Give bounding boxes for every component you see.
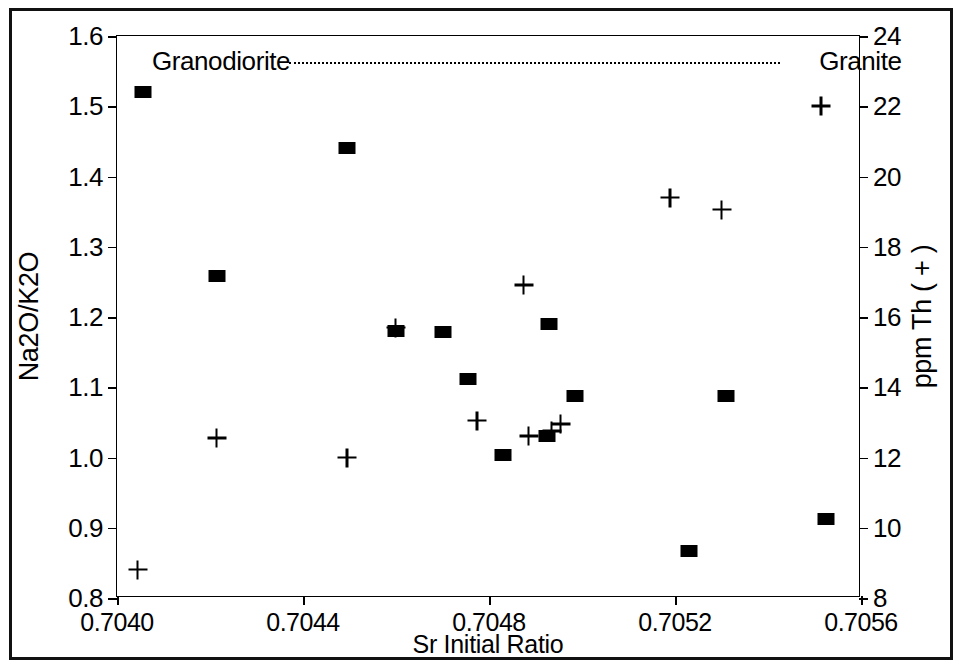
y-axis-left-tick xyxy=(108,317,117,319)
annotation-connector-line xyxy=(289,62,780,64)
y-axis-left-tick xyxy=(108,387,117,389)
y-axis-left-tick xyxy=(108,458,117,460)
y-axis-right-tick xyxy=(859,36,868,38)
y-axis-left-tick-label: 0.9 xyxy=(68,515,103,541)
y-axis-left-tick xyxy=(108,528,117,530)
x-axis-tick xyxy=(489,596,491,605)
x-axis-tick xyxy=(117,596,119,605)
y-axis-right-tick xyxy=(859,387,868,389)
y-axis-right-tick-label: 10 xyxy=(873,515,901,541)
data-point-square xyxy=(460,373,477,385)
y-axis-right-title: ppm Th ( + ) xyxy=(905,35,941,597)
y-axis-left-tick-label: 1.0 xyxy=(68,445,103,471)
x-axis-tick-label: 0.7048 xyxy=(452,610,525,635)
data-point-square xyxy=(718,390,735,402)
annotation-label-granodiorite: Granodiorite xyxy=(152,45,290,76)
y-axis-right-tick xyxy=(859,247,868,249)
data-point-square xyxy=(680,545,697,557)
y-axis-right-tick-label: 20 xyxy=(873,164,901,190)
y-axis-right-tick xyxy=(859,106,868,108)
y-axis-right-tick-label: 16 xyxy=(873,304,901,330)
y-axis-right-tick-label: 14 xyxy=(873,374,901,400)
data-point-square xyxy=(567,390,584,402)
data-point-square xyxy=(208,270,225,282)
data-point-plus xyxy=(519,427,538,446)
data-point-square xyxy=(134,86,151,98)
y-axis-left-title-text: Na2O/K2O xyxy=(15,251,46,381)
data-point-plus xyxy=(338,448,357,467)
y-axis-right-tick-label: 22 xyxy=(873,93,901,119)
y-axis-right-tick xyxy=(859,177,868,179)
data-point-plus xyxy=(661,188,680,207)
data-point-square xyxy=(494,449,511,461)
y-axis-right-tick xyxy=(859,317,868,319)
data-point-plus xyxy=(552,415,571,434)
y-axis-left-tick-label: 1.5 xyxy=(68,93,103,119)
x-axis-tick-label: 0.7056 xyxy=(824,610,897,635)
annotation-label-granite: Granite xyxy=(819,45,901,76)
data-point-plus xyxy=(812,97,831,116)
y-axis-right-tick-label: 12 xyxy=(873,445,901,471)
y-axis-left-tick xyxy=(108,106,117,108)
data-point-plus xyxy=(468,411,487,430)
data-point-square xyxy=(339,142,356,154)
y-axis-left-tick-label: 1.2 xyxy=(68,304,103,330)
x-axis-tick-label: 0.7040 xyxy=(80,610,153,635)
x-axis-tick-label: 0.7044 xyxy=(266,610,339,635)
x-axis-tick xyxy=(675,596,677,605)
y-axis-left-tick xyxy=(108,36,117,38)
y-axis-left-tick xyxy=(108,598,117,600)
figure-container: Na2O/K2O ppm Th ( + ) Sr Initial Ratio 0… xyxy=(0,0,961,668)
data-point-plus xyxy=(387,318,406,337)
y-axis-right-title-text: ppm Th ( + ) xyxy=(908,244,939,388)
x-axis-tick xyxy=(303,596,305,605)
x-axis-tick-label: 0.7052 xyxy=(638,610,711,635)
y-axis-left-tick-label: 1.6 xyxy=(68,23,103,49)
y-axis-right-tick xyxy=(859,458,868,460)
data-point-plus xyxy=(514,276,533,295)
data-point-plus xyxy=(128,560,147,579)
y-axis-left-tick-label: 1.3 xyxy=(68,234,103,260)
y-axis-left-tick xyxy=(108,247,117,249)
y-axis-right-tick-label: 18 xyxy=(873,234,901,260)
x-axis-tick xyxy=(861,596,863,605)
data-point-square xyxy=(434,326,451,338)
y-axis-left-title: Na2O/K2O xyxy=(13,35,47,597)
y-axis-right-tick xyxy=(859,528,868,530)
data-point-plus xyxy=(207,429,226,448)
y-axis-left-tick-label: 1.1 xyxy=(68,374,103,400)
y-axis-left-tick-label: 1.4 xyxy=(68,164,103,190)
data-point-square xyxy=(818,513,835,525)
y-axis-left-tick xyxy=(108,177,117,179)
data-point-square xyxy=(541,318,558,330)
plot-area: 0.80.91.01.11.21.31.41.51.68101214161820… xyxy=(116,35,860,597)
data-point-plus xyxy=(712,200,731,219)
